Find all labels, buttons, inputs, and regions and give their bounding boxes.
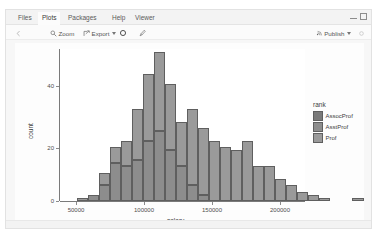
histogram-bar-segment bbox=[165, 84, 176, 151]
zoom-label: Zoom bbox=[59, 28, 75, 39]
histogram-bar bbox=[121, 141, 132, 201]
histogram-bar bbox=[231, 150, 242, 201]
y-axis-tick-label: 20 bbox=[34, 145, 54, 151]
histogram-bar bbox=[242, 141, 253, 201]
x-axis-tick bbox=[280, 202, 281, 205]
ggplot-image: 4020050000100000150000200000 count salar… bbox=[15, 43, 364, 225]
histogram-bar-segment bbox=[110, 147, 121, 163]
export-button[interactable]: Export bbox=[83, 27, 116, 39]
publish-button[interactable]: Publish bbox=[315, 27, 351, 39]
legend-key bbox=[313, 122, 323, 132]
y-axis-tick bbox=[56, 148, 59, 149]
y-axis-line bbox=[59, 49, 60, 201]
tab-packages[interactable]: Packages bbox=[64, 12, 101, 25]
gear-icon bbox=[358, 30, 365, 37]
histogram-bar bbox=[132, 109, 143, 201]
x-axis-tick-label: 200000 bbox=[260, 207, 300, 213]
refresh-button[interactable] bbox=[119, 27, 127, 39]
histogram-bar-segment bbox=[99, 185, 110, 201]
refresh-icon bbox=[119, 29, 127, 37]
legend-label: AssocProf bbox=[326, 113, 353, 119]
plot-surface[interactable]: 4020050000100000150000200000 count salar… bbox=[6, 40, 371, 228]
histogram-bar-segment bbox=[187, 185, 198, 201]
pane-options-button[interactable] bbox=[358, 27, 365, 39]
pane-statusbar bbox=[6, 220, 371, 228]
x-axis-tick bbox=[144, 202, 145, 205]
histogram-bar-segment bbox=[176, 166, 187, 201]
histogram-bars bbox=[60, 49, 305, 201]
legend-item: AssocProf bbox=[313, 110, 353, 121]
tab-viewer[interactable]: Viewer bbox=[131, 12, 159, 25]
y-axis-tick-label: 40 bbox=[34, 83, 54, 89]
histogram-bar-segment bbox=[220, 147, 231, 201]
histogram-bar-segment bbox=[308, 195, 319, 201]
plots-toolbar: Zoom Export bbox=[6, 25, 371, 40]
histogram-bar bbox=[253, 166, 264, 201]
histogram-bar bbox=[220, 147, 231, 201]
clear-plots-button[interactable] bbox=[139, 27, 146, 39]
histogram-bar-segment bbox=[231, 150, 242, 201]
histogram-bar-segment bbox=[275, 179, 286, 201]
minimize-icon[interactable] bbox=[350, 13, 357, 20]
histogram-bar bbox=[176, 122, 187, 201]
histogram-bar bbox=[143, 74, 154, 201]
legend-label: Prof bbox=[326, 135, 337, 141]
back-button[interactable] bbox=[15, 27, 22, 39]
legend-item: AsstProf bbox=[313, 121, 353, 132]
y-axis-title: count bbox=[27, 123, 34, 139]
tab-plots[interactable]: Plots bbox=[38, 12, 60, 25]
legend-swatch bbox=[313, 133, 323, 143]
histogram-bar bbox=[110, 147, 121, 201]
tab-help[interactable]: Help bbox=[108, 12, 129, 25]
histogram-bar bbox=[154, 52, 165, 201]
legend-key bbox=[313, 133, 323, 143]
histogram-bar-segment bbox=[132, 160, 143, 201]
histogram-bar bbox=[352, 198, 364, 201]
histogram-bar bbox=[275, 179, 286, 201]
tab-plots-label: Plots bbox=[42, 14, 56, 21]
pane-tabstrip: Files Plots Packages Help Viewer bbox=[6, 10, 371, 25]
histogram-bar-segment bbox=[297, 192, 308, 202]
histogram-bar bbox=[297, 192, 308, 202]
histogram-bar-segment bbox=[264, 166, 275, 201]
histogram-bar-segment bbox=[143, 74, 154, 141]
x-axis-tick bbox=[76, 202, 77, 205]
histogram-bar-segment bbox=[143, 141, 154, 201]
plots-pane-window: Files Plots Packages Help Viewer bbox=[5, 9, 372, 229]
histogram-bar-segment bbox=[99, 173, 110, 186]
export-label: Export bbox=[92, 28, 110, 39]
chevron-down-icon[interactable] bbox=[347, 32, 351, 35]
histogram-bar bbox=[198, 128, 209, 201]
x-axis-tick-label: 150000 bbox=[192, 207, 232, 213]
export-icon bbox=[83, 30, 90, 37]
legend-item: Prof bbox=[313, 132, 353, 143]
histogram-bar bbox=[286, 185, 297, 201]
tab-files[interactable]: Files bbox=[14, 12, 36, 25]
y-axis-tick bbox=[56, 201, 59, 202]
histogram-bar-segment bbox=[286, 185, 297, 201]
x-axis-tick-label: 50000 bbox=[56, 207, 96, 213]
x-axis-tick bbox=[212, 202, 213, 205]
legend-swatch bbox=[313, 111, 323, 121]
y-axis-tick-label: 0 bbox=[34, 198, 54, 204]
histogram-bar-segment bbox=[187, 109, 198, 185]
histogram-bar-segment bbox=[121, 166, 132, 201]
histogram-bar-segment bbox=[352, 198, 364, 201]
x-axis-tick-label: 100000 bbox=[124, 207, 164, 213]
histogram-bar-segment bbox=[154, 131, 165, 201]
legend-label: AsstProf bbox=[326, 124, 349, 130]
window-controls bbox=[350, 13, 367, 20]
chevron-down-icon[interactable] bbox=[112, 32, 116, 35]
tab-viewer-label: Viewer bbox=[135, 14, 155, 21]
histogram-bar-segment bbox=[253, 166, 264, 201]
histogram-bar-segment bbox=[242, 141, 253, 201]
zoom-button[interactable]: Zoom bbox=[50, 27, 74, 39]
histogram-bar bbox=[308, 195, 319, 201]
histogram-bar bbox=[165, 84, 176, 201]
tab-packages-label: Packages bbox=[68, 14, 97, 21]
histogram-bar-segment bbox=[154, 52, 165, 131]
brush-icon bbox=[139, 29, 146, 37]
maximize-icon[interactable] bbox=[360, 13, 367, 20]
plot-legend: rank AssocProfAsstProfProf bbox=[313, 101, 353, 143]
magnifier-icon bbox=[50, 30, 57, 37]
